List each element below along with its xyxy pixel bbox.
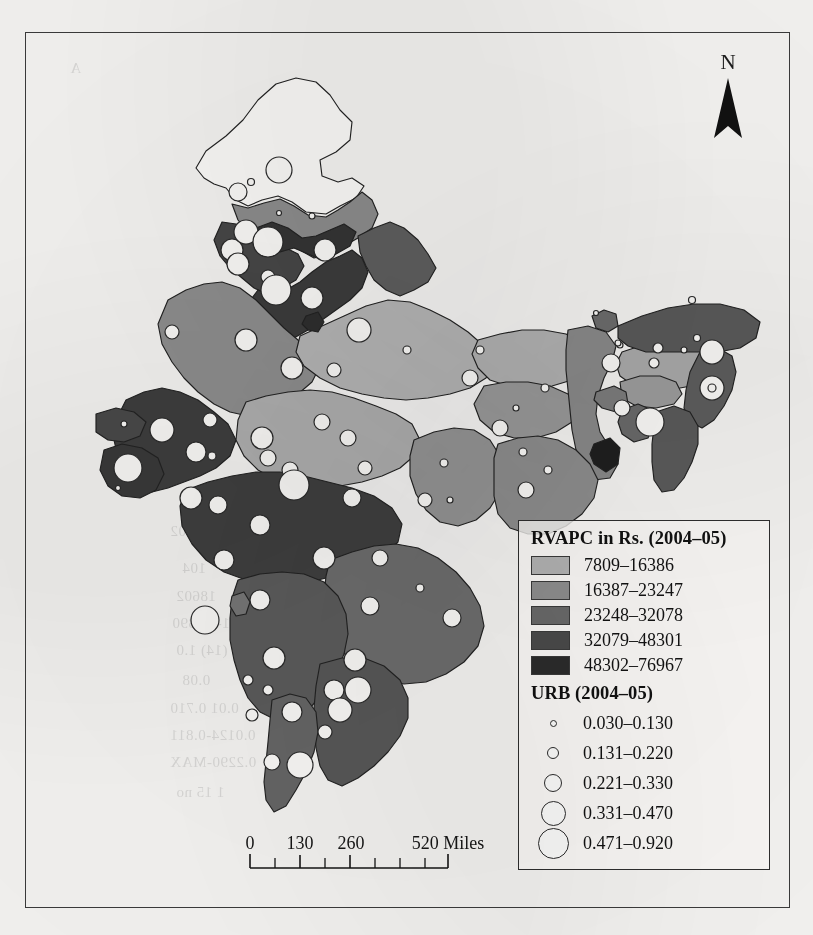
urb-symbol xyxy=(251,427,273,449)
urb-symbol xyxy=(361,597,379,615)
urb-symbol xyxy=(180,487,202,509)
urb-symbol xyxy=(229,183,247,201)
legend-circle-wrap xyxy=(531,801,575,826)
urb-symbol xyxy=(282,702,302,722)
urb-symbol xyxy=(277,211,282,216)
urb-symbol xyxy=(243,675,253,685)
legend-row-rvapc: 16387–23247 xyxy=(531,578,769,603)
urb-symbol xyxy=(186,442,206,462)
north-arrow-label: N xyxy=(700,52,756,73)
urb-symbol xyxy=(327,363,341,377)
legend-row-urb: 0.030–0.130 xyxy=(531,708,769,738)
urb-symbol xyxy=(649,358,659,368)
urb-symbol xyxy=(203,413,217,427)
urb-symbol xyxy=(250,590,270,610)
legend-swatch-label: 32079–48301 xyxy=(584,630,683,651)
urb-symbol xyxy=(318,725,332,739)
urb-symbol xyxy=(594,311,599,316)
urb-symbol xyxy=(544,466,552,474)
legend-swatch xyxy=(531,656,570,675)
urb-symbol xyxy=(324,680,344,700)
urb-symbol xyxy=(209,496,227,514)
legend-row-urb: 0.131–0.220 xyxy=(531,738,769,768)
legend-circle-label: 0.131–0.220 xyxy=(583,743,673,764)
urb-symbol xyxy=(281,357,303,379)
urb-symbol xyxy=(314,239,336,261)
legend-swatch xyxy=(531,581,570,600)
urb-symbol xyxy=(114,454,142,482)
urb-symbol xyxy=(694,335,701,342)
urb-symbol xyxy=(418,493,432,507)
legend-circle xyxy=(538,828,569,859)
urb-symbol xyxy=(689,297,696,304)
urb-symbol xyxy=(440,459,448,467)
legend-circle-wrap xyxy=(531,747,575,759)
urb-symbol xyxy=(636,408,664,436)
urb-symbol xyxy=(519,448,527,456)
urb-symbol xyxy=(344,649,366,671)
legend-swatch xyxy=(531,606,570,625)
legend-swatch xyxy=(531,556,570,575)
urb-symbol xyxy=(263,647,285,669)
legend-circle-wrap xyxy=(531,774,575,792)
legend-row-rvapc: 7809–16386 xyxy=(531,553,769,578)
urb-symbol xyxy=(165,325,179,339)
legend-swatch-label: 7809–16386 xyxy=(584,555,674,576)
urb-symbol xyxy=(287,752,313,778)
legend-row-rvapc: 23248–32078 xyxy=(531,603,769,628)
urb-symbol xyxy=(614,400,630,416)
figure-page: (2) 1102 104 18602 0.0401-0.1390 (14) 1.… xyxy=(0,0,813,935)
region-chhattisgarh xyxy=(410,428,504,526)
urb-symbol xyxy=(246,709,258,721)
legend-swatch-label: 16387–23247 xyxy=(584,580,683,601)
urb-symbol xyxy=(208,452,216,460)
region-arunachal xyxy=(618,304,760,352)
urb-symbol xyxy=(314,414,330,430)
urb-symbol xyxy=(214,550,234,570)
urb-symbol xyxy=(266,157,292,183)
urb-symbol xyxy=(372,550,388,566)
scale-tick-label: 260 xyxy=(338,833,365,854)
urb-symbol xyxy=(513,405,519,411)
legend-swatch-label: 23248–32078 xyxy=(584,605,683,626)
legend-swatch-label: 48302–76967 xyxy=(584,655,683,676)
urb-symbol xyxy=(541,384,549,392)
legend-circle-label: 0.471–0.920 xyxy=(583,833,673,854)
map-legend: RVAPC in Rs. (2004–05) 7809–16386 16387–… xyxy=(518,520,770,870)
urb-symbol xyxy=(264,754,280,770)
urb-symbol xyxy=(261,275,291,305)
urb-symbol xyxy=(328,698,352,722)
legend-row-urb: 0.331–0.470 xyxy=(531,798,769,828)
urb-symbol xyxy=(121,421,127,427)
urb-symbol xyxy=(345,677,371,703)
urb-symbol xyxy=(358,461,372,475)
north-arrow: N xyxy=(700,52,756,148)
legend-circle-wrap xyxy=(531,828,575,859)
urb-symbol xyxy=(227,253,249,275)
scale-bar-ticks xyxy=(248,853,453,869)
scale-bar-labels: 0 130 260 520 Miles xyxy=(248,833,453,853)
legend-circle-wrap xyxy=(531,720,575,727)
region-jharkhand xyxy=(474,382,578,438)
urb-symbol xyxy=(615,340,621,346)
urb-symbol xyxy=(403,346,411,354)
legend-title-urb: URB (2004–05) xyxy=(531,683,769,704)
north-arrow-icon xyxy=(711,76,745,142)
urb-symbol xyxy=(443,609,461,627)
urb-symbol xyxy=(248,179,255,186)
urb-symbol xyxy=(313,547,335,569)
legend-circle-label: 0.030–0.130 xyxy=(583,713,673,734)
urb-symbol xyxy=(309,213,315,219)
urb-symbol xyxy=(301,287,323,309)
legend-circle-label: 0.221–0.330 xyxy=(583,773,673,794)
legend-swatch xyxy=(531,631,570,650)
legend-row-urb: 0.221–0.330 xyxy=(531,768,769,798)
urb-symbol xyxy=(476,346,484,354)
region-uttarakhand xyxy=(358,222,436,296)
scale-bar: 0 130 260 520 Miles xyxy=(248,833,453,867)
legend-circle xyxy=(547,747,559,759)
urb-symbol xyxy=(343,489,361,507)
region-meghalaya xyxy=(620,376,682,408)
urb-symbol xyxy=(150,418,174,442)
urb-symbol xyxy=(253,227,283,257)
